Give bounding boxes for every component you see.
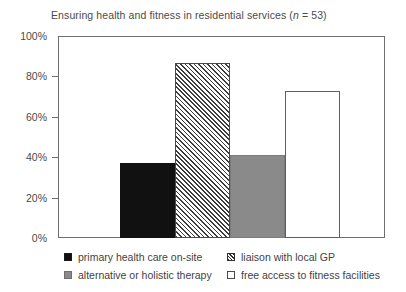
legend-label: primary health care on-site	[78, 251, 202, 263]
legend-swatch-open	[227, 271, 235, 279]
bar-solid-black	[120, 163, 175, 238]
legend-item: liaison with local GP	[227, 249, 380, 265]
legend-item: free access to fitness facilities	[227, 267, 380, 283]
y-tick-label: 40%	[26, 152, 47, 163]
legend-swatch-solid-gray	[64, 271, 72, 279]
chart-title-suffix: = 53)	[299, 9, 327, 21]
y-tick-label: 20%	[26, 192, 47, 203]
legend-label: liaison with local GP	[241, 251, 335, 263]
bar-hatched	[175, 63, 230, 238]
y-tick-label: 60%	[26, 111, 47, 122]
y-axis: 100%80%60%40%20%0%	[0, 0, 58, 292]
chart-title: Ensuring health and fitness in residenti…	[51, 9, 327, 22]
legend-swatch-solid-black	[64, 253, 72, 261]
bar-open	[285, 91, 340, 238]
legend-item: alternative or holistic therapy	[64, 267, 212, 283]
legend-column-left: primary health care on-sitealternative o…	[64, 249, 212, 285]
bar-solid-gray	[230, 155, 285, 238]
chart-legend: primary health care on-sitealternative o…	[58, 249, 398, 285]
legend-column-right: liaison with local GPfree access to fitn…	[227, 249, 380, 285]
legend-label: free access to fitness facilities	[241, 269, 380, 281]
chart-title-prefix: Ensuring health and fitness in residenti…	[51, 9, 293, 21]
y-tick-label: 80%	[26, 71, 47, 82]
bars-layer	[58, 36, 385, 238]
y-tick-label: 100%	[20, 31, 47, 42]
legend-label: alternative or holistic therapy	[78, 269, 212, 281]
y-tick-label: 0%	[32, 233, 47, 244]
legend-swatch-hatched	[227, 253, 235, 261]
bar-chart: Ensuring health and fitness in residenti…	[0, 0, 406, 292]
legend-item: primary health care on-site	[64, 249, 212, 265]
